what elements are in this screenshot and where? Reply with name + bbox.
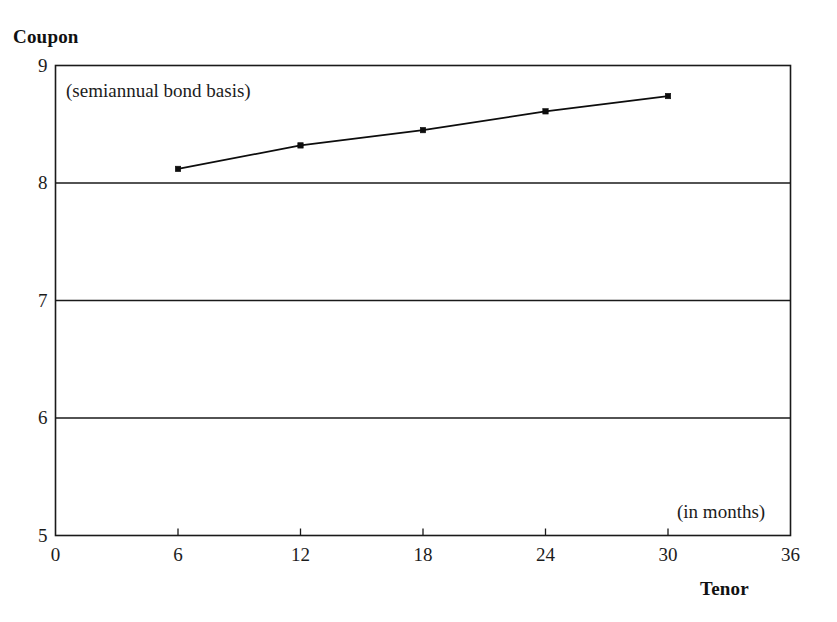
x-tick-marks <box>178 529 668 536</box>
x-tick-label-6: 6 <box>158 544 198 566</box>
x-tick-label-36: 36 <box>771 544 811 566</box>
x-tick-label-18: 18 <box>403 544 443 566</box>
plot-area <box>0 0 837 622</box>
data-point-18m <box>420 127 425 132</box>
coupon-tenor-chart: Coupon Tenor (semiannual bond basis) (in… <box>0 0 837 622</box>
data-point-30m <box>665 93 670 98</box>
x-tick-label-0: 0 <box>36 544 76 566</box>
x-tick-label-24: 24 <box>526 544 566 566</box>
data-point-12m <box>298 143 303 148</box>
x-tick-label-30: 30 <box>648 544 688 566</box>
y-tick-label-7: 7 <box>22 290 48 312</box>
x-tick-label-12: 12 <box>281 544 321 566</box>
gridlines <box>56 183 791 418</box>
y-tick-label-8: 8 <box>22 172 48 194</box>
data-point-24m <box>543 109 548 114</box>
y-tick-label-9: 9 <box>22 55 48 77</box>
data-point-6m <box>175 166 180 171</box>
y-tick-label-6: 6 <box>22 407 48 429</box>
